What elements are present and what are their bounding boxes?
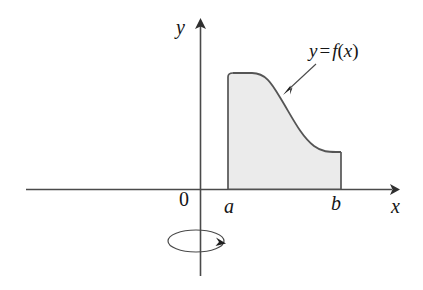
function-annotation-x: x xyxy=(344,40,352,61)
function-annotation-close-paren: ) xyxy=(352,40,358,61)
upper-bound-label-b: b xyxy=(331,193,341,213)
y-axis-label: y xyxy=(176,17,185,37)
arrow-pointer-line xyxy=(288,64,316,90)
figure-canvas: y x 0 a b y=f(x) xyxy=(0,0,423,290)
origin-label: 0 xyxy=(179,189,189,209)
rotation-ellipse-icon xyxy=(168,230,224,252)
function-annotation-label: y=f(x) xyxy=(309,41,359,60)
figure-vector-graphics xyxy=(0,0,423,290)
function-annotation-equals: = xyxy=(317,40,332,61)
lower-bound-label-a: a xyxy=(224,196,234,216)
x-axis-label: x xyxy=(391,196,400,216)
shaded-region xyxy=(228,73,341,189)
